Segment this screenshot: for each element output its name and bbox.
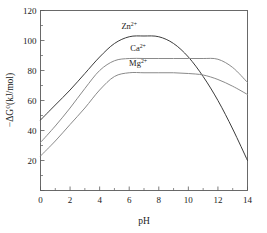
y-tick-label: 60 [28, 96, 38, 106]
free-energy-vs-ph-chart: 20406080100120 02468101214 Zn2+Ca2+Mg2+ … [0, 0, 267, 233]
data-curves [41, 36, 248, 161]
y-axis-title: −ΔG⁰(kJ/mol) [5, 73, 16, 127]
annotation-label: Zn2+ [121, 21, 137, 31]
curve-zn2+ [41, 36, 248, 161]
x-tick-label: 12 [213, 195, 222, 205]
x-tick-label: 0 [38, 195, 43, 205]
y-axis-ticks [41, 11, 45, 191]
annotation-label: Mg2+ [129, 58, 147, 68]
y-tick-label: 20 [28, 156, 38, 166]
x-tick-label: 2 [68, 195, 73, 205]
series-annotations: Zn2+Ca2+Mg2+ [121, 21, 147, 69]
x-axis-tick-labels: 02468101214 [38, 195, 252, 205]
x-tick-label: 14 [243, 195, 253, 205]
x-tick-label: 10 [184, 195, 194, 205]
y-axis-tick-labels: 20406080100120 [23, 6, 37, 166]
annotation-label: Ca2+ [130, 43, 146, 53]
chart-figure: 20406080100120 02468101214 Zn2+Ca2+Mg2+ … [0, 0, 267, 233]
annotation-ca2+: Ca2+ [130, 43, 146, 53]
x-tick-label: 4 [97, 195, 102, 205]
y-axis-title-group: −ΔG⁰(kJ/mol) [5, 73, 16, 127]
plot-frame [41, 11, 248, 191]
curve-mg2+ [41, 72, 248, 156]
y-tick-label: 40 [28, 126, 38, 136]
x-axis-title: pH [138, 216, 150, 226]
y-tick-label: 80 [28, 66, 38, 76]
curve-ca2+ [41, 58, 248, 142]
y-tick-label: 100 [23, 36, 37, 46]
annotation-zn2+: Zn2+ [121, 21, 137, 31]
y-tick-label: 120 [23, 6, 37, 16]
x-tick-label: 6 [127, 195, 132, 205]
x-axis-ticks [41, 187, 248, 191]
annotation-mg2+: Mg2+ [129, 58, 147, 68]
x-tick-label: 8 [157, 195, 162, 205]
